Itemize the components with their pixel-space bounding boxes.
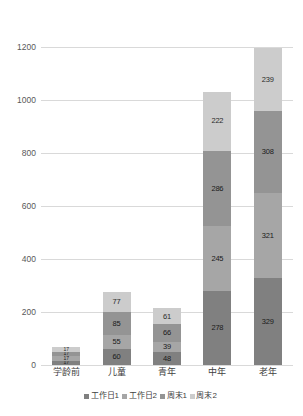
legend-label: 周末1 [167,392,187,400]
bar-group[interactable]: 48396661 [153,308,181,365]
y-tick-label: 1000 [0,96,36,105]
bar-segment[interactable]: 308 [254,111,282,193]
bar-value-label: 77 [113,298,121,306]
bar-segment[interactable]: 77 [103,292,131,312]
bar-value-label: 39 [163,343,171,351]
bar-value-label: 245 [211,255,223,263]
bar-value-label: 60 [113,353,121,361]
y-tick-label: 600 [0,202,36,211]
bar-segment[interactable]: 278 [203,291,231,365]
bar-segment[interactable]: 17 [52,361,80,366]
bar-segment[interactable]: 55 [103,335,131,350]
y-tick-label: 400 [0,255,36,264]
legend-item[interactable]: 工作日1 [84,392,119,400]
plot-area: 1717171760558577483966612782452862223293… [41,47,293,365]
bar-value-label: 61 [163,313,171,321]
bar-segment[interactable]: 66 [153,324,181,341]
bar-value-label: 329 [262,318,274,326]
bar-segment[interactable]: 61 [153,308,181,324]
bar-segment[interactable]: 48 [153,352,181,365]
bar-segment[interactable]: 17 [52,356,80,361]
bar-segment[interactable]: 17 [52,347,80,352]
y-tick-label: 800 [0,149,36,158]
bar-value-label: 17 [64,361,69,366]
bar-value-label: 321 [262,232,274,240]
y-tick-label: 200 [0,308,36,317]
bar-value-label: 55 [113,338,121,346]
legend-item[interactable]: 周末1 [160,392,187,400]
x-tick-label: 学龄前 [41,368,91,377]
bar-value-label: 17 [64,347,69,352]
y-axis: 020040060080010001200 [0,0,41,416]
bar-segment[interactable]: 85 [103,312,131,335]
bar-segment[interactable]: 222 [203,92,231,151]
bar-value-label: 239 [262,76,274,84]
bar-segment[interactable]: 329 [254,278,282,365]
legend-label: 工作日2 [129,392,157,400]
bar-segment[interactable]: 286 [203,151,231,227]
y-tick-label: 0 [0,361,36,370]
legend-swatch-icon [122,394,127,399]
bar-segment[interactable]: 239 [254,48,282,111]
bar-value-label: 308 [262,148,274,156]
bar-value-label: 278 [211,324,223,332]
bar-segment[interactable]: 17 [52,352,80,357]
chart-legend: 工作日1工作日2周末1周末2 [0,392,303,400]
bar-group[interactable]: 278245286222 [203,92,231,365]
bar-group[interactable]: 17171717 [52,347,80,365]
bar-value-label: 286 [211,185,223,193]
y-tick-label: 1200 [0,43,36,52]
legend-label: 周末2 [196,392,216,400]
bar-group[interactable]: 60558577 [103,292,131,365]
bar-value-label: 222 [211,117,223,125]
legend-swatch-icon [160,394,165,399]
legend-swatch-icon [84,394,89,399]
bar-value-label: 17 [64,356,69,361]
bar-segment[interactable]: 321 [254,193,282,278]
stacked-bar-chart: 1717171760558577483966612782452862223293… [0,0,303,416]
bar-value-label: 85 [113,320,121,328]
bar-value-label: 17 [64,352,69,357]
bar-value-label: 48 [163,355,171,363]
bar-group[interactable]: 329321308239 [254,48,282,365]
legend-swatch-icon [190,394,195,399]
x-tick-label: 青年 [142,368,192,377]
bar-value-label: 66 [163,329,171,337]
x-tick-label: 中年 [192,368,242,377]
legend-label: 工作日1 [91,392,119,400]
x-axis: 学龄前儿童青年中年老年 [41,366,293,386]
bar-segment[interactable]: 60 [103,349,131,365]
x-tick-label: 儿童 [91,368,141,377]
legend-item[interactable]: 工作日2 [122,392,157,400]
legend-item[interactable]: 周末2 [190,392,217,400]
x-tick-label: 老年 [243,368,293,377]
bar-segment[interactable]: 39 [153,342,181,352]
bar-segment[interactable]: 245 [203,226,231,291]
